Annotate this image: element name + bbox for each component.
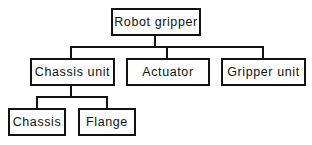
- node-label: Flange: [86, 115, 128, 129]
- node-chassis: Chassis: [8, 108, 66, 136]
- node-gripper-unit: Gripper unit: [221, 58, 306, 86]
- node-label: Actuator: [142, 65, 193, 79]
- node-chassis-unit: Chassis unit: [30, 58, 115, 86]
- node-label: Chassis: [13, 115, 62, 129]
- node-label: Chassis unit: [35, 65, 110, 79]
- node-robot-gripper: Robot gripper: [111, 8, 201, 36]
- node-actuator: Actuator: [126, 58, 210, 86]
- node-flange: Flange: [78, 108, 136, 136]
- connector-level2-bar: [36, 96, 108, 98]
- node-label: Robot gripper: [114, 15, 198, 29]
- node-label: Gripper unit: [227, 65, 300, 79]
